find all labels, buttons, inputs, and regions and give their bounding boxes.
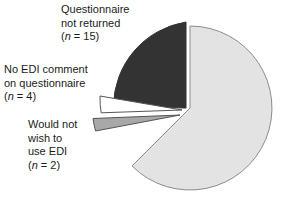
slice-label-count: (n = 2): [28, 159, 77, 173]
slice-label-count: (n = 4): [4, 90, 88, 104]
slice-label-line-2: on questionnaire: [4, 77, 88, 91]
slice-label-count: (n = 15): [61, 30, 130, 44]
pie-slice-would-not-wish-use-edi: [93, 115, 180, 131]
slice-label-questionnaire-not-returned: Questionnaire not returned (n = 15): [61, 3, 130, 44]
slice-label-line-3: use EDI: [28, 145, 77, 159]
slice-label-line-2: wish to: [28, 132, 77, 146]
slice-label-line-2: not returned: [61, 17, 130, 31]
slice-label-line-1: Questionnaire: [61, 3, 130, 17]
slice-label-line-1: Would not: [28, 118, 77, 132]
slice-label-no-edi-comment: No EDI comment on questionnaire (n = 4): [4, 63, 88, 104]
pie-chart-figure: Questionnaire not returned (n = 15) No E…: [0, 0, 282, 204]
slice-label-line-1: No EDI comment: [4, 63, 88, 77]
slice-label-would-not-wish-use-edi: Would not wish to use EDI (n = 2): [28, 118, 77, 172]
